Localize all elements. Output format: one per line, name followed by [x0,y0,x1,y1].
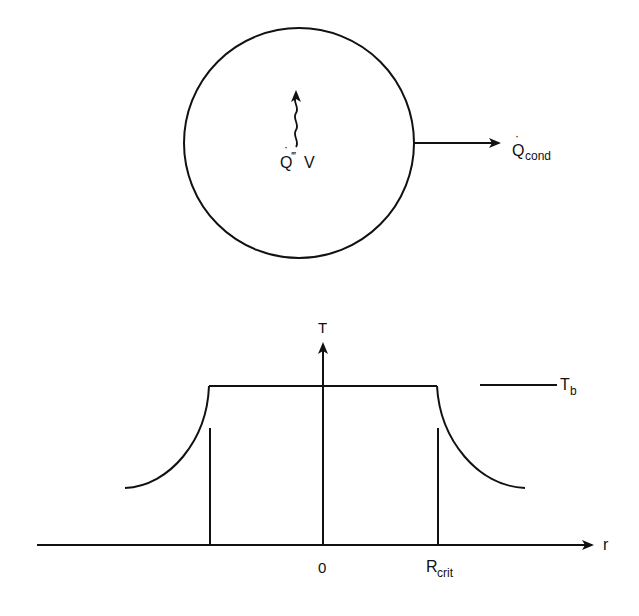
tick-label-rcrit-sub: crit [437,566,454,580]
diagram-canvas: · Q ‴ V · Q cond r T T [0,0,639,616]
left-decay-curve [125,386,209,488]
conduction-label-sub: cond [525,149,551,163]
generation-label-sup: ‴ [291,150,296,162]
generation-label-base: Q [280,154,292,171]
tick-label-zero: 0 [318,559,326,576]
right-decay-curve [437,386,525,488]
conduction-label: · Q cond [512,129,551,163]
tick-label-rcrit: R crit [426,558,454,580]
bulk-temperature-label-base: T [560,376,570,393]
r-axis-label: r [603,536,609,553]
bulk-temperature-label-sub: b [570,384,577,398]
wavy-generation-arrow-icon [295,92,297,147]
bulk-temperature-label: T b [560,376,577,398]
conduction-label-dot: · [515,129,519,143]
sphere-outline [184,28,414,258]
conduction-label-base: Q [512,142,524,159]
tick-label-rcrit-base: R [426,558,438,575]
generation-label-tail: V [304,154,315,171]
temperature-profile-figure: r T T b 0 R crit [37,319,609,580]
t-axis-label: T [318,319,327,336]
generation-label-dot: · [284,140,288,154]
sphere-figure: · Q ‴ V · Q cond [184,28,551,258]
